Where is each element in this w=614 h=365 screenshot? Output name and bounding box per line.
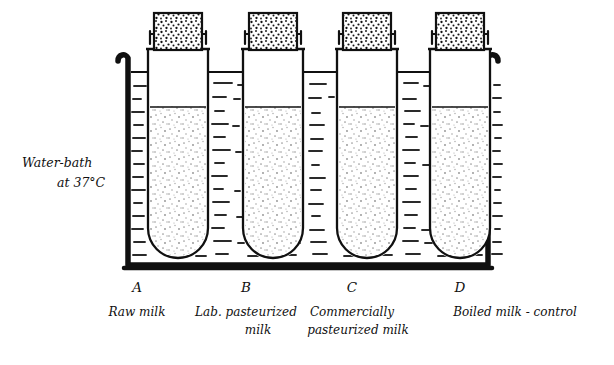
bath-label-line1: Water-bath	[22, 155, 92, 170]
tube-d-cotton-plug	[432, 13, 488, 50]
test-tube-d	[428, 13, 492, 260]
tube-c-plug-body	[343, 13, 391, 50]
figure-canvas: Water-bath at 37°C A Raw milk B Lab. pas…	[0, 0, 614, 365]
test-tube-c	[335, 13, 399, 260]
tube-b-letter: B	[240, 279, 251, 295]
tube-c-cotton-plug	[339, 13, 395, 50]
tube-c-caption-line2: pasteurized milk	[307, 323, 408, 337]
tube-c-caption-line1: Commercially	[310, 305, 394, 319]
tube-b-plug-body	[249, 13, 297, 50]
tube-c-letter: C	[347, 279, 358, 295]
tube-a-letter: A	[130, 279, 142, 295]
tube-d-caption-line1: Boiled milk - control	[452, 305, 577, 319]
tube-a-cotton-plug	[150, 13, 206, 50]
tube-d-letter: D	[454, 279, 466, 295]
tube-d-plug-body	[436, 13, 484, 50]
tube-b-caption-line2: milk	[245, 323, 271, 337]
tube-b-caption-line1: Lab. pasteurized	[194, 305, 297, 319]
test-tube-a	[146, 13, 210, 260]
water-bath-diagram: Water-bath at 37°C A Raw milk B Lab. pas…	[0, 0, 614, 365]
bath-label-line2: at 37°C	[57, 175, 106, 190]
tube-a-plug-body	[154, 13, 202, 50]
test-tube-b	[241, 13, 305, 260]
tube-b-cotton-plug	[245, 13, 301, 50]
tube-a-caption-line1: Raw milk	[108, 305, 166, 319]
